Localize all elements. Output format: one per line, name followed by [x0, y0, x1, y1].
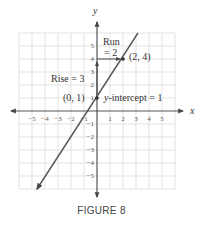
- figure-caption: FIGURE 8: [0, 205, 203, 216]
- svg-text:−4: −4: [41, 115, 49, 123]
- point-0-1: [95, 96, 99, 100]
- x-axis-label: x: [189, 105, 195, 116]
- svg-text:−5: −5: [28, 115, 36, 123]
- svg-text:2: 2: [91, 81, 95, 89]
- rise-label: Rise = 3: [51, 73, 84, 84]
- svg-text:−2: −2: [87, 133, 95, 141]
- svg-text:4: 4: [91, 55, 95, 63]
- x-tick-labels: −5 −4 −3 −2 −1 1 2 3 4 5: [28, 115, 164, 123]
- svg-text:−5: −5: [87, 172, 95, 180]
- svg-text:−3: −3: [87, 146, 95, 154]
- svg-text:3: 3: [91, 68, 95, 76]
- svg-text:−2: −2: [67, 115, 75, 123]
- point-b-label: (2, 4): [129, 51, 151, 63]
- svg-text:5: 5: [160, 115, 164, 123]
- point-2-4: [121, 57, 125, 61]
- svg-text:5: 5: [91, 42, 95, 50]
- svg-text:1: 1: [108, 115, 112, 123]
- svg-text:3: 3: [134, 115, 138, 123]
- coordinate-plane-figure: x y −5 −4 −3 −2 −1 1 2 3 4 5 5 4 3 2 1 −…: [0, 0, 203, 205]
- y-intercept-label: y-intercept = 1: [103, 92, 162, 103]
- run-label-line2: = 2: [104, 47, 117, 58]
- point-a-label: (0, 1): [63, 92, 85, 104]
- svg-text:−1: −1: [87, 120, 95, 128]
- svg-text:−4: −4: [87, 159, 95, 167]
- run-label-line1: Run: [103, 36, 120, 47]
- svg-text:4: 4: [147, 115, 151, 123]
- svg-text:2: 2: [121, 115, 125, 123]
- svg-text:−3: −3: [54, 115, 62, 123]
- y-axis-label: y: [92, 5, 98, 16]
